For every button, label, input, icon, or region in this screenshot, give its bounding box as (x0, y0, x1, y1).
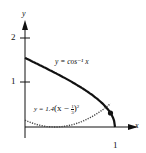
x-tick-label-1: 1 (113, 141, 118, 150)
x-axis-label: x (135, 122, 139, 130)
arccos-curve (25, 58, 115, 127)
chart-plot (0, 0, 146, 153)
parabola-label-prefix: y = 1.4 (34, 105, 54, 113)
y-axis-arrow-icon (22, 20, 28, 30)
arccos-curve-label: y = cos⁻¹ x (55, 58, 89, 66)
parabola-label-exponent: 2 (77, 104, 80, 109)
parabola-curve-label: y = 1.4(x − 13)2 (34, 104, 79, 115)
y-tick-label-1: 1 (11, 77, 16, 86)
y-axis-label: y (22, 10, 26, 18)
parabola-label-body: (x − (54, 103, 71, 113)
intersection-point (108, 110, 113, 115)
y-tick-label-2: 2 (11, 33, 16, 42)
